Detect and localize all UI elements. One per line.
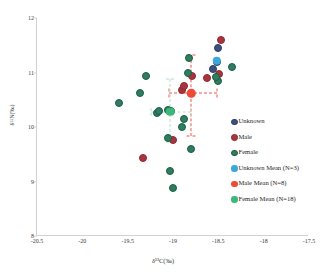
legend-item-label: Male (239, 134, 253, 141)
y-axis-tick-mark (34, 181, 37, 182)
data-point-male (139, 154, 147, 162)
legend-item-label: Male Mean (N=8) (239, 180, 287, 187)
x-axis-tick-label: -19 (169, 238, 177, 244)
data-point-female (136, 89, 144, 97)
y-axis-tick-mark (34, 18, 37, 19)
data-point-female (142, 72, 150, 80)
legend-item-label: Female (239, 149, 258, 156)
error-bar-cap (187, 136, 196, 137)
data-point-female (169, 184, 177, 192)
legend-item-label: Unknown (239, 118, 265, 125)
error-bar-cap (191, 108, 192, 116)
error-bar-cap (166, 79, 174, 80)
legend-item: Unknown (231, 114, 326, 130)
x-axis-tick-label: -20.5 (31, 238, 44, 244)
data-point-female (185, 54, 193, 62)
male-swatch (231, 134, 238, 141)
error-bar-cap (151, 108, 152, 116)
x-axis-tick-label: -18 (260, 238, 268, 244)
legend-item-label: Female Mean (N=18) (239, 196, 296, 203)
data-point-male (203, 74, 211, 82)
error-bar-cap (217, 89, 218, 98)
scatter-chart: δ¹⁵N(‰) 89101112 -20.5-20-19.5-19-18.5-1… (0, 0, 326, 273)
y-axis-tick-mark (34, 72, 37, 73)
legend-item: Male Mean (N=8) (231, 176, 326, 192)
data-point-female (180, 115, 188, 123)
legend-item: Female Mean (N=18) (231, 192, 326, 208)
data-point-female (155, 107, 163, 115)
data-point-female (164, 134, 172, 142)
legend-item-label: Unknown Mean (N=3) (239, 165, 300, 172)
data-point-male (180, 82, 188, 90)
female-swatch (231, 150, 238, 157)
data-point-female (184, 69, 192, 77)
x-axis-tick-label: -17.5 (303, 238, 316, 244)
data-point-female (228, 63, 236, 71)
data-point-female (115, 99, 123, 107)
y-axis-tick-mark (34, 127, 37, 128)
data-point-female (178, 123, 186, 131)
y-axis-title: δ¹⁵N(‰) (9, 75, 15, 155)
x-axis-tick-label: -19.5 (121, 238, 134, 244)
unknown-mean-swatch (231, 165, 238, 172)
chart-legend: UnknownMaleFemaleUnknown Mean (N=3)Male … (231, 114, 326, 207)
data-point-unknown-mean (212, 56, 221, 65)
data-point-female-mean (166, 107, 175, 116)
y-axis-tick-mark (34, 236, 37, 237)
x-axis-title: δ¹³C(‰) (0, 257, 326, 264)
data-point-male-mean (187, 89, 196, 98)
data-point-unknown (214, 44, 222, 52)
x-axis-tick-label: -18.5 (212, 238, 225, 244)
unknown-swatch (231, 119, 238, 126)
female-mean-swatch (231, 196, 238, 203)
data-point-female (166, 167, 174, 175)
legend-item: Male (231, 130, 326, 146)
x-axis-tick-label: -20 (78, 238, 86, 244)
legend-item: Unknown Mean (N=3) (231, 161, 326, 177)
data-point-male (217, 36, 225, 44)
data-point-female (187, 145, 195, 153)
legend-item: Female (231, 145, 326, 161)
data-point-female (212, 73, 220, 81)
male-mean-swatch (231, 181, 238, 188)
